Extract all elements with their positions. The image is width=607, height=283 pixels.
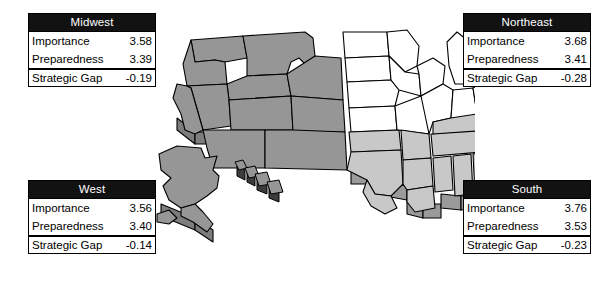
map-svg <box>155 18 475 258</box>
region-card-rows: Importance 3.56 Preparedness 3.40 Strate… <box>29 198 155 253</box>
region-card-rows: Importance 3.76 Preparedness 3.53 Strate… <box>464 198 590 253</box>
row-value-importance: 3.68 <box>565 35 587 47</box>
row-label-strategic-gap: Strategic Gap <box>467 239 537 251</box>
region-card-south: South Importance 3.76 Preparedness 3.53 … <box>463 180 591 254</box>
row-value-strategic-gap: -0.28 <box>561 72 587 84</box>
region-card-rows: Importance 3.68 Preparedness 3.41 Strate… <box>464 31 590 86</box>
row-importance: Importance 3.58 <box>29 32 155 50</box>
region-card-midwest: Midwest Importance 3.58 Preparedness 3.3… <box>28 13 156 87</box>
row-value-importance: 3.58 <box>130 35 152 47</box>
row-label-importance: Importance <box>32 202 90 214</box>
row-label-preparedness: Preparedness <box>467 220 539 232</box>
region-card-title: West <box>29 181 155 198</box>
us-regions-map <box>155 18 475 258</box>
row-label-preparedness: Preparedness <box>467 53 539 65</box>
row-strategic-gap: Strategic Gap -0.19 <box>29 68 155 86</box>
region-card-title: Midwest <box>29 14 155 31</box>
row-value-preparedness: 3.41 <box>565 53 587 65</box>
row-preparedness: Preparedness 3.40 <box>29 217 155 235</box>
region-card-title: South <box>464 181 590 198</box>
row-label-importance: Importance <box>467 35 525 47</box>
row-value-importance: 3.76 <box>565 202 587 214</box>
region-card-west: West Importance 3.56 Preparedness 3.40 S… <box>28 180 156 254</box>
row-label-strategic-gap: Strategic Gap <box>32 72 102 84</box>
row-label-preparedness: Preparedness <box>32 220 104 232</box>
row-value-preparedness: 3.39 <box>130 53 152 65</box>
row-label-strategic-gap: Strategic Gap <box>32 239 102 251</box>
row-value-strategic-gap: -0.14 <box>126 239 152 251</box>
region-card-title: Northeast <box>464 14 590 31</box>
region-card-rows: Importance 3.58 Preparedness 3.39 Strate… <box>29 31 155 86</box>
row-label-importance: Importance <box>32 35 90 47</box>
row-preparedness: Preparedness 3.41 <box>464 50 590 68</box>
row-importance: Importance 3.56 <box>29 199 155 217</box>
row-strategic-gap: Strategic Gap -0.28 <box>464 68 590 86</box>
row-value-strategic-gap: -0.23 <box>561 239 587 251</box>
row-value-importance: 3.56 <box>130 202 152 214</box>
row-label-importance: Importance <box>467 202 525 214</box>
row-value-strategic-gap: -0.19 <box>126 72 152 84</box>
row-importance: Importance 3.76 <box>464 199 590 217</box>
row-label-preparedness: Preparedness <box>32 53 104 65</box>
row-value-preparedness: 3.53 <box>565 220 587 232</box>
row-importance: Importance 3.68 <box>464 32 590 50</box>
region-card-northeast: Northeast Importance 3.68 Preparedness 3… <box>463 13 591 87</box>
row-preparedness: Preparedness 3.53 <box>464 217 590 235</box>
row-strategic-gap: Strategic Gap -0.23 <box>464 235 590 253</box>
row-strategic-gap: Strategic Gap -0.14 <box>29 235 155 253</box>
row-value-preparedness: 3.40 <box>130 220 152 232</box>
row-label-strategic-gap: Strategic Gap <box>467 72 537 84</box>
map-region-alaska <box>157 146 219 242</box>
figure-canvas: Midwest Importance 3.58 Preparedness 3.3… <box>0 0 607 283</box>
row-preparedness: Preparedness 3.39 <box>29 50 155 68</box>
